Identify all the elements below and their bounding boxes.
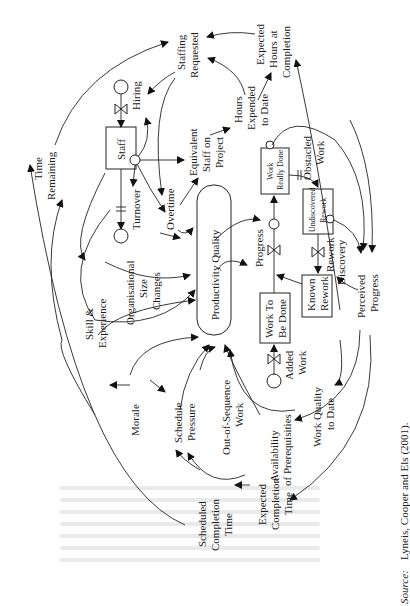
svg-text:Completion: Completion [209,499,221,551]
svg-text:Scheduled: Scheduled [196,501,208,547]
label-morale: Morale [129,404,141,436]
svg-text:Staffing: Staffing [175,34,187,70]
svg-text:Work: Work [233,402,245,427]
work-really-done-stock: Work Really Done [261,148,289,194]
label-out-of-sequence-work: Out-of-Sequence Work [220,380,245,455]
svg-text:Equivalent: Equivalent [187,128,199,176]
svg-text:Work: Work [296,350,308,375]
svg-text:Pressure: Pressure [185,404,197,441]
causal-loop-diagram: Staff Productivity Quality Work To Be Do… [0,0,410,606]
source-caption: Source: Lyneis, Cooper and Els (2001). [398,422,410,604]
hiring-flow [114,80,128,127]
svg-text:Work: Work [266,162,275,180]
label-hours-expended: Hours Expended to Date [232,86,270,130]
label-discovery: Discovery [335,239,347,285]
svg-text:Known: Known [305,278,317,311]
svg-text:Out-of-Sequence: Out-of-Sequence [220,380,232,455]
svg-text:to Date: to Date [324,398,336,430]
label-progress: Progress [253,229,265,267]
svg-text:Completion: Completion [280,26,292,78]
svg-text:Really Done: Really Done [276,149,285,190]
work-done-node [266,141,274,149]
progress-flow [268,196,280,293]
svg-text:Added: Added [283,350,295,380]
label-availability-prerequisites: Availability of Prerequisities [268,414,293,486]
turnover-flow [114,169,128,243]
rework-node [326,215,334,223]
productivity-quality-box: Productivity Quality [197,185,231,335]
svg-text:Time: Time [222,513,234,536]
svg-text:Project: Project [213,137,225,168]
svg-text:Progress: Progress [368,274,380,312]
label-obstacled-work: Obstacled Work [301,136,326,180]
svg-text:Schedule: Schedule [172,403,184,443]
svg-text:Staff on: Staff on [200,137,212,172]
svg-text:to Date: to Date [258,94,270,126]
work-to-be-done-stock: Work To Be Done [260,293,290,343]
svg-text:Remaining: Remaining [45,151,57,200]
svg-text:Work: Work [314,140,326,165]
svg-text:Be Done: Be Done [276,299,288,338]
svg-text:Skill &: Skill & [83,307,95,340]
label-staffing-requested: Staffing Requested [175,32,200,78]
svg-text:Rework: Rework [318,276,330,311]
svg-text:Organisational: Organisational [124,260,136,325]
svg-text:Lyneis, Cooper and Els (2001).: Lyneis, Cooper and Els (2001). [398,422,410,560]
svg-text:Undiscovered: Undiscovered [308,188,317,232]
svg-text:Hours: Hours [232,96,244,123]
svg-text:Staff: Staff [115,138,127,160]
label-expected-hours: Expected Hours at Completion [254,24,292,78]
svg-text:Expended: Expended [245,86,257,130]
svg-text:Work Quality: Work Quality [311,387,323,447]
label-schedule-pressure: Schedule Pressure [172,403,197,443]
label-hiring: Hiring [130,81,142,110]
svg-text:Time: Time [282,492,294,515]
svg-text:Work To: Work To [263,299,275,338]
label-perceived-progress: Perceived Progress [355,274,380,318]
label-time-remaining: Time Remaining [32,151,57,200]
svg-text:Time: Time [32,157,44,180]
label-scheduled-completion-time: Scheduled Completion Time [196,499,234,551]
label-work-quality-to-date: Work Quality to Date [311,387,336,447]
svg-text:Hours at: Hours at [267,30,279,68]
svg-text:Expected: Expected [254,24,266,65]
svg-text:Productivity Quality: Productivity Quality [209,229,221,320]
svg-text:Obstacled: Obstacled [301,136,313,180]
known-rework-stock: Known Rework [302,275,332,317]
svg-text:Size: Size [137,279,149,298]
added-work-flow [267,345,281,388]
svg-text:Source:: Source: [398,570,410,604]
svg-text:Requested: Requested [188,32,200,78]
undiscovered-rework-stock: Undiscovered Rework [303,188,333,234]
svg-text:Expected: Expected [256,484,268,525]
label-turnover: Turnover [130,189,142,230]
label-org-size-changes: Organisational Size Changes [124,260,162,325]
label-equivalent-staff: Equivalent Staff on Project [187,128,225,176]
svg-text:of Prerequisities: of Prerequisities [281,414,293,486]
label-added-work: Added Work [283,350,308,380]
svg-text:Changes: Changes [150,272,162,310]
svg-text:Perceived: Perceived [355,274,367,318]
label-overtime: Overtime [164,188,176,230]
svg-text:Experience: Experience [96,298,108,348]
svg-text:Availability: Availability [268,430,280,482]
svg-text:Completion: Completion [269,478,281,530]
